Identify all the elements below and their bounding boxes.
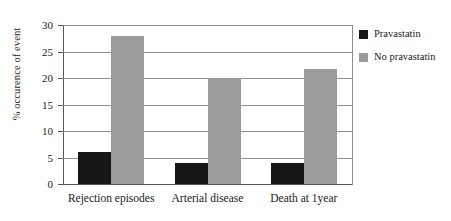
legend-swatch-icon: [359, 53, 368, 62]
legend-label: No pravastatin: [374, 51, 436, 63]
y-tick-label: 25: [13, 47, 53, 58]
y-tick-label: 15: [13, 100, 53, 111]
gridline: [63, 25, 352, 26]
legend-swatch-icon: [359, 30, 368, 39]
x-axis-category-label: Rejection episodes: [63, 192, 159, 205]
bar-chart: % occurence of event 051015202530 Reject…: [0, 0, 451, 221]
bar: [271, 163, 304, 184]
legend-label: Pravastatin: [374, 28, 421, 40]
y-tick-mark: [58, 184, 63, 185]
bar: [111, 36, 144, 184]
bar: [175, 163, 208, 184]
legend-item: No pravastatin: [359, 48, 451, 66]
y-tick-label: 10: [13, 126, 53, 137]
legend: PravastatinNo pravastatin: [359, 25, 451, 71]
x-axis-category-label: Arterial disease: [159, 192, 255, 205]
y-tick-label: 20: [13, 73, 53, 84]
bar: [78, 152, 111, 184]
y-tick-label: 0: [13, 179, 53, 190]
legend-item: Pravastatin: [359, 25, 451, 43]
bar: [304, 69, 337, 184]
plot-area: [63, 25, 352, 184]
y-tick-label: 30: [13, 20, 53, 31]
gridline: [63, 52, 352, 53]
y-tick-label: 5: [13, 153, 53, 164]
bar: [208, 78, 241, 184]
plot-right-edge: [352, 25, 353, 185]
x-axis-line: [63, 184, 353, 185]
x-axis-category-label: Death at 1year: [256, 192, 352, 205]
